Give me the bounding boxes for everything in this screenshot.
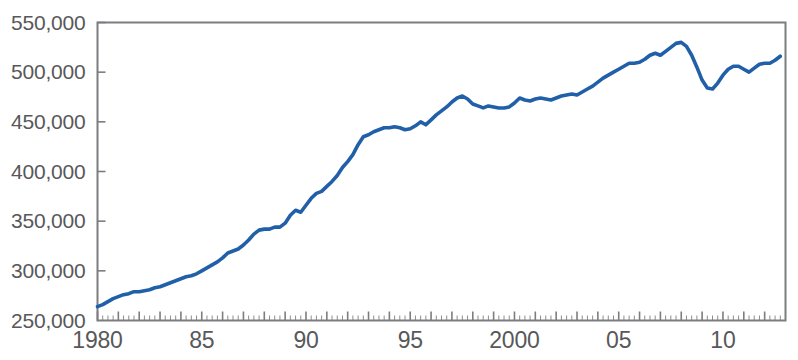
y-axis-tick-label: 450,000	[11, 110, 86, 133]
y-tick-labels: 250,000300,000350,000400,000450,000500,0…	[11, 11, 86, 332]
y-axis-tick-label: 500,000	[11, 60, 86, 83]
y-tick-marks	[98, 23, 106, 271]
y-axis-tick-label: 400,000	[11, 160, 86, 183]
y-axis-tick-label: 350,000	[11, 209, 86, 232]
axis-frame	[98, 23, 786, 321]
x-major-ticks	[98, 312, 765, 321]
x-axis-tick-label: 10	[710, 327, 735, 353]
x-tick-labels: 198085909520000510	[72, 327, 735, 353]
data-series-line	[98, 42, 781, 306]
chart-figure: 250,000300,000350,000400,000450,000500,0…	[0, 0, 798, 360]
y-axis-tick-label: 300,000	[11, 259, 86, 282]
line-chart: 250,000300,000350,000400,000450,000500,0…	[0, 0, 798, 360]
x-axis-tick-label: 95	[398, 327, 423, 353]
x-axis-tick-label: 90	[293, 327, 318, 353]
x-axis-tick-label: 2000	[489, 327, 539, 353]
x-axis-tick-label: 85	[189, 327, 214, 353]
y-axis-tick-label: 550,000	[11, 11, 86, 34]
x-axis-tick-label: 1980	[72, 327, 122, 353]
x-axis-tick-label: 05	[606, 327, 631, 353]
